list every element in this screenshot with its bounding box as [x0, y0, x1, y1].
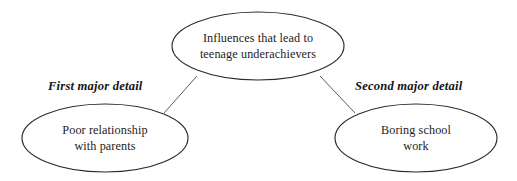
node-central-topic[interactable]: Influences that lead to teenage underach…: [172, 12, 344, 80]
detail-right-line-2: work: [403, 139, 429, 153]
detail-left-line-1: Poor relationship: [62, 123, 147, 137]
detail-right-ellipse[interactable]: [335, 104, 497, 172]
connector-label-right: Second major detail: [355, 79, 463, 93]
central-topic-ellipse[interactable]: [172, 12, 344, 80]
central-topic-line-1: Influences that lead to: [203, 31, 313, 45]
cluster-diagram: Influences that lead to teenage underach…: [0, 0, 517, 181]
diagram-canvas: Influences that lead to teenage underach…: [0, 0, 517, 181]
connector-line-left: [164, 76, 197, 113]
connector-line-right: [320, 76, 355, 113]
node-detail-left[interactable]: Poor relationship with parents: [22, 104, 188, 172]
detail-right-line-1: Boring school: [381, 123, 452, 137]
connector-label-left: First major detail: [47, 79, 143, 93]
detail-left-ellipse[interactable]: [22, 104, 188, 172]
central-topic-line-2: teenage underachievers: [200, 47, 316, 61]
detail-left-line-2: with parents: [74, 139, 135, 153]
node-detail-right[interactable]: Boring school work: [335, 104, 497, 172]
